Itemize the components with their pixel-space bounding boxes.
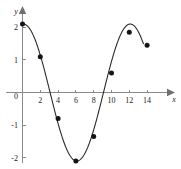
y-axis-arrow-icon: [19, 6, 26, 14]
x-tick-label-8: 8: [92, 96, 96, 105]
x-axis-tick-labels: 2 4 6 8 10 12 14: [38, 96, 151, 105]
x-tick-label-12: 12: [125, 96, 133, 105]
x-axis-label: x: [171, 95, 176, 104]
data-point-4: [91, 134, 96, 139]
x-tick-label-4: 4: [56, 96, 60, 105]
data-point-3: [73, 158, 78, 163]
y-tick-label-0: 0: [14, 92, 18, 101]
x-tick-label-14: 14: [143, 96, 151, 105]
y-tick-label-neg2: -2: [11, 154, 18, 163]
scatter-plot-figure: 2 4 6 8 10 12 14 2 1 0 -1 -2 x y: [0, 0, 181, 169]
data-point-7: [145, 43, 150, 48]
chart-canvas: 2 4 6 8 10 12 14 2 1 0 -1 -2 x y: [0, 0, 181, 169]
y-tick-label-1: 1: [14, 56, 18, 65]
data-point-6: [127, 30, 132, 35]
x-tick-label-10: 10: [108, 96, 116, 105]
data-point-5: [109, 70, 114, 75]
y-tick-label-2: 2: [14, 23, 18, 32]
data-point-0: [20, 22, 25, 27]
y-axis-label: y: [13, 7, 18, 16]
x-tick-label-6: 6: [74, 96, 78, 105]
data-point-1: [38, 54, 43, 59]
data-point-2: [56, 116, 61, 121]
y-tick-label-neg1: -1: [11, 121, 18, 130]
x-tick-label-2: 2: [38, 96, 42, 105]
